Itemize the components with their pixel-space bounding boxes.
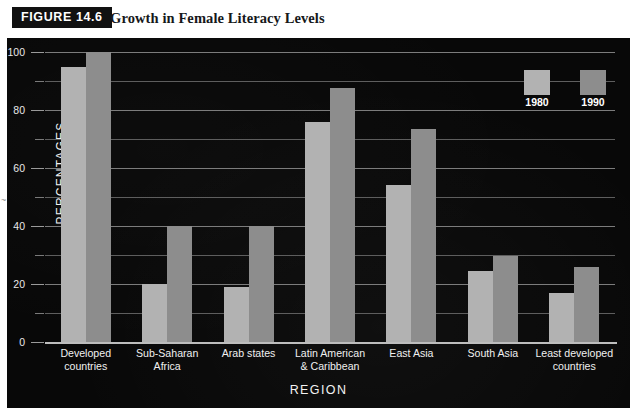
y-tick-minor-50 [35,197,44,198]
y-tick-minor-90 [35,81,44,82]
category-label-line: countries [514,360,630,373]
y-axis-label-60: 60 [7,163,25,173]
bar-1980-arab-states[interactable] [224,287,249,342]
y-axis-label-80: 80 [7,105,25,115]
legend-entry-1980[interactable]: 1980 [515,70,559,108]
y-tick-20 [31,284,44,285]
category-label-line: & Caribbean [270,360,390,373]
bar-1990-least-developed-countries[interactable] [574,267,599,342]
bar-1980-east-asia[interactable] [386,185,411,342]
bar-1980-sub-saharan-africa[interactable] [142,284,167,342]
bar-1990-south-asia[interactable] [493,256,518,342]
x-axis-category-least-developed-countries: Least developedcountries [514,347,630,372]
chart-legend: 19801990 [515,70,625,122]
y-axis-label-100: 100 [7,47,25,57]
bar-1980-least-developed-countries[interactable] [549,293,574,342]
y-tick-minor-10 [35,313,44,314]
bar-1980-latin-american-caribbean[interactable] [305,122,330,342]
bar-1990-arab-states[interactable] [249,226,274,342]
figure-title: Growth in Female Literacy Levels [110,9,325,27]
bar-1980-developed-countries[interactable] [61,67,86,343]
legend-swatch-1990 [580,70,606,95]
x-axis-baseline [45,342,617,344]
legend-label-1990: 1990 [571,97,615,108]
bar-1990-sub-saharan-africa[interactable] [167,226,192,342]
y-tick-minor-70 [35,139,44,140]
legend-label-1980: 1980 [515,97,559,108]
y-tick-0 [31,342,44,343]
scan-artifact-mark: ~ [1,196,7,205]
legend-entry-1990[interactable]: 1990 [571,70,615,108]
figure-number-badge: FIGURE 14.6 [12,7,112,28]
category-label-line: Africa [107,360,227,373]
bar-1990-latin-american-caribbean[interactable] [330,88,355,342]
figure-header: FIGURE 14.6 Growth in Female Literacy Le… [0,0,637,42]
x-axis-title: REGION [7,383,630,397]
y-tick-100 [31,52,44,53]
bar-1990-developed-countries[interactable] [86,52,111,342]
bar-1990-east-asia[interactable] [411,129,436,342]
y-tick-minor-30 [35,255,44,256]
gridline-major-100 [45,52,615,53]
y-tick-40 [31,226,44,227]
y-axis-label-20: 20 [7,279,25,289]
legend-swatch-1980 [524,70,550,95]
y-axis-label-0: 0 [7,337,25,347]
y-tick-80 [31,110,44,111]
bar-1980-south-asia[interactable] [468,271,493,342]
y-axis-label-40: 40 [7,221,25,231]
chart-panel: PERCENTAGES 020406080100 Developedcountr… [7,38,630,408]
category-label-line: Least developed [514,347,630,360]
y-tick-60 [31,168,44,169]
